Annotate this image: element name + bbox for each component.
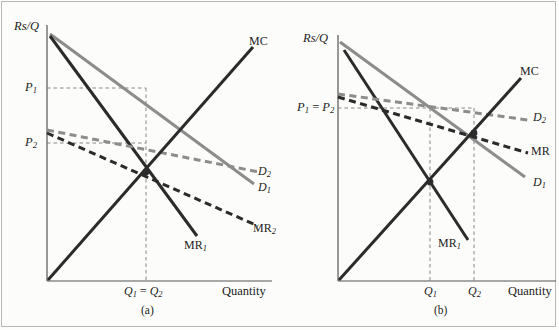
curve-mr1-panel-b — [344, 50, 468, 240]
curve-d2-panel-b — [338, 94, 528, 120]
figure-canvas: .ax { stroke:#555555; stroke-width:1.2; … — [0, 0, 559, 330]
panel-b-equilibrium-point-2 — [471, 130, 478, 137]
figure-page: .ax { stroke:#555555; stroke-width:1.2; … — [0, 0, 559, 330]
panel-b-p-eq: = — [309, 100, 322, 114]
panel-b-mr1-base: MR — [438, 236, 457, 250]
panel-b-p1-base: P — [297, 100, 305, 114]
panel-b-q2-sub: 2 — [477, 290, 481, 299]
curve-d1-panel-b — [340, 42, 525, 177]
panel-b-d2-base: D — [533, 110, 542, 124]
panel-a-quantity-tick-label: Q1 = Q2 — [124, 285, 163, 300]
panel-b-p2-sub: 2 — [330, 105, 334, 115]
panel-b-mr1-label: MR1 — [438, 237, 461, 252]
panel-b-q1-sub: 1 — [433, 290, 437, 299]
panel-b-price-label: P1 = P2 — [297, 101, 334, 115]
panel-a-d2-label: D2 — [258, 165, 271, 180]
panel-b-equilibrium-point-1 — [427, 179, 434, 186]
panel-b-q1-base: Q — [424, 284, 433, 298]
panel-a-p2-label: P2 — [25, 136, 37, 150]
panel-a-caption: (a) — [141, 305, 154, 317]
panel-b-mr-label: MR — [531, 145, 550, 157]
panel-a-d2-base: D — [258, 164, 267, 178]
panel-b-y-axis-label: Rs/Q — [303, 32, 328, 45]
panel-a-p1-label: P1 — [25, 81, 37, 95]
panel-a-mc-label: MC — [249, 35, 268, 47]
panel-a-q-eq: = — [137, 284, 150, 298]
curve-mr2-panel-a — [47, 133, 258, 226]
panel-a-p1-sub: 1 — [33, 85, 37, 95]
panel-b-d1-sub: 1 — [542, 181, 546, 190]
panel-a-mc-base: MC — [249, 34, 268, 48]
panel-a-d1-base: D — [258, 180, 267, 194]
panel-a-x-axis-label: Quantity — [222, 285, 266, 298]
panel-b-p2-base: P — [322, 100, 330, 114]
panel-a-p2-base: P — [25, 135, 33, 149]
panel-b-caption: (b) — [434, 305, 447, 317]
panel-b-curves — [338, 42, 528, 280]
panel-a-y-axis-label: Rs/Q — [14, 20, 39, 33]
panel-a-mr2-label: MR2 — [253, 222, 276, 237]
curve-mr-panel-b — [338, 97, 528, 153]
panel-a-curves — [47, 34, 259, 280]
panel-b-mc-base: MC — [520, 64, 539, 78]
panel-b-q1-tick-label: Q1 — [424, 285, 437, 300]
panel-a-d1-label: D1 — [258, 181, 271, 196]
panel-a-d1-sub: 1 — [267, 186, 271, 195]
panel-b-d2-label: D2 — [533, 111, 546, 126]
panel-a-mr2-base: MR — [253, 221, 272, 235]
panel-a-mr1-sub: 1 — [203, 244, 207, 253]
panel-a-p1-base: P — [25, 80, 33, 94]
panel-b-mr1-sub: 1 — [457, 242, 461, 251]
panel-a-d2-sub: 2 — [267, 170, 271, 179]
panel-b-x-axis-label: Quantity — [508, 285, 552, 298]
panel-b-q2-tick-label: Q2 — [468, 285, 481, 300]
panel-a-q1-base: Q — [124, 284, 133, 298]
panel-b-mc-label: MC — [520, 65, 539, 77]
panel-a-q2-sub: 2 — [158, 290, 162, 299]
panel-a-p2-sub: 2 — [33, 140, 37, 150]
panel-b-d1-label: D1 — [533, 176, 546, 191]
panel-a-mr1-label: MR1 — [184, 239, 207, 254]
panel-a-q2-base: Q — [150, 284, 159, 298]
panel-a-mr2-sub: 2 — [272, 227, 276, 236]
panel-b-d2-sub: 2 — [542, 116, 546, 125]
panel-a-equilibrium-point — [143, 169, 150, 176]
panel-b-mr-base: MR — [531, 144, 550, 158]
panel-b-guides — [338, 108, 474, 281]
panel-a-mr1-base: MR — [184, 238, 203, 252]
panel-b-d1-base: D — [533, 175, 542, 189]
panel-b-q2-base: Q — [468, 284, 477, 298]
